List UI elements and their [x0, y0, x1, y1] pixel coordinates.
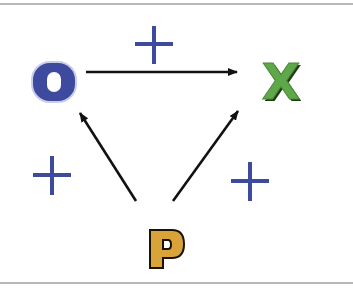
edge-p-to-o-arrow — [80, 113, 136, 201]
node-p — [150, 230, 184, 268]
svg-text:X: X — [262, 53, 301, 111]
balance-diagram: X X O X P — [0, 0, 353, 293]
sign-o-x-plus-icon — [135, 26, 173, 64]
node-o — [32, 62, 76, 102]
sign-p-o-plus-icon — [33, 156, 71, 195]
edge-p-to-x-arrow — [173, 111, 238, 201]
sign-p-x-plus-icon — [231, 162, 269, 201]
node-x: X X — [262, 53, 303, 113]
